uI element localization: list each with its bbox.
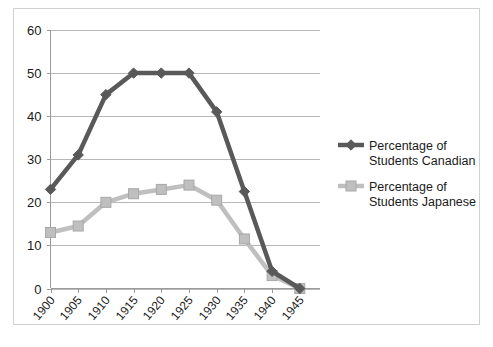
data-point-marker	[346, 140, 356, 150]
data-point-marker	[101, 197, 111, 207]
legend-label-line1: Percentage of	[369, 180, 447, 194]
y-tick-label: 10	[27, 238, 41, 253]
line-chart: 0102030405060 19001905191019151920192519…	[0, 0, 493, 347]
gridlines	[51, 31, 321, 290]
data-point-marker	[73, 221, 83, 231]
data-point-marker	[129, 189, 139, 199]
y-tick-label: 40	[27, 109, 41, 124]
data-point-marker	[212, 195, 222, 205]
x-axis-tick-labels: 1900190519101915192019251930193519401945	[30, 293, 307, 323]
y-tick-label: 0	[34, 282, 41, 297]
y-tick-label: 50	[27, 66, 41, 81]
y-tick-label: 20	[27, 195, 41, 210]
y-axis-tick-labels: 0102030405060	[27, 23, 41, 297]
x-tick-label: 1935	[223, 293, 251, 323]
series-line	[51, 73, 300, 288]
legend-label-line2: Students Japanese	[369, 195, 476, 209]
x-tick-label: 1915	[113, 293, 141, 323]
x-tick-label: 1910	[85, 293, 113, 323]
data-point-marker	[346, 181, 356, 191]
x-tick-label: 1900	[30, 293, 58, 323]
x-tick-label: 1930	[196, 293, 224, 323]
data-point-marker	[46, 227, 56, 237]
series-japanese	[46, 180, 305, 293]
chart-legend: Percentage ofStudents CanadianPercentage…	[338, 139, 476, 209]
legend-label-line2: Students Canadian	[369, 154, 475, 168]
y-axis-tickmarks	[47, 31, 51, 290]
legend-label-line1: Percentage of	[369, 139, 447, 153]
data-point-marker	[239, 234, 249, 244]
x-tick-label: 1925	[168, 293, 196, 323]
x-tick-label: 1940	[251, 293, 279, 323]
data-point-marker	[184, 180, 194, 190]
x-tick-label: 1920	[140, 293, 168, 323]
data-point-marker	[156, 68, 166, 78]
y-tick-label: 30	[27, 152, 41, 167]
data-series-group	[45, 68, 305, 294]
legend-entry: Percentage ofStudents Japanese	[338, 180, 476, 209]
y-tick-label: 60	[27, 23, 41, 38]
series-canadian	[45, 68, 305, 294]
x-tick-label: 1905	[57, 293, 85, 323]
legend-entry: Percentage ofStudents Canadian	[338, 139, 475, 168]
x-tick-label: 1945	[279, 293, 307, 323]
data-point-marker	[156, 184, 166, 194]
